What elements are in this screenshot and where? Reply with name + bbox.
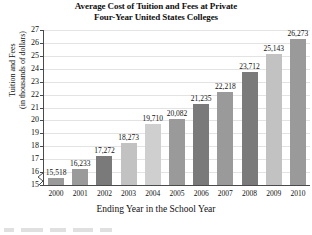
x-axis-tick-label: 2003 bbox=[117, 189, 141, 198]
y-axis-tick-label: 26 bbox=[31, 39, 39, 47]
x-axis-tick-label: 2008 bbox=[237, 189, 261, 198]
bar-slot: 21,235 bbox=[189, 30, 213, 185]
bar[interactable] bbox=[169, 119, 185, 185]
x-axis-tick-label: 2007 bbox=[213, 189, 237, 198]
bar-series: 15,51816,23317,27218,27319,71020,08221,2… bbox=[44, 30, 310, 185]
x-axis-tick-label: 2000 bbox=[44, 189, 68, 198]
bar-value-label: 25,143 bbox=[263, 45, 284, 53]
source-note-fragment bbox=[4, 228, 154, 234]
bar-slot: 23,712 bbox=[237, 30, 261, 185]
chart-title-line-2: Four-Year United States Colleges bbox=[0, 12, 312, 23]
y-axis-tick-label: 22 bbox=[31, 91, 39, 99]
x-axis-tick-label: 2001 bbox=[68, 189, 92, 198]
bar-slot: 16,233 bbox=[68, 30, 92, 185]
bar-value-label: 20,082 bbox=[167, 110, 188, 118]
y-axis-tick-label: 23 bbox=[31, 78, 39, 86]
bar-value-label: 18,273 bbox=[118, 134, 139, 142]
bar-slot: 17,272 bbox=[92, 30, 116, 185]
y-axis-tick-label: 17 bbox=[31, 155, 39, 163]
bar-value-label: 16,233 bbox=[70, 160, 91, 168]
bar[interactable] bbox=[72, 169, 88, 185]
bar[interactable] bbox=[145, 124, 161, 185]
y-axis-tick-label: 18 bbox=[31, 142, 39, 150]
bar-slot: 18,273 bbox=[117, 30, 141, 185]
x-axis-tick-label: 2006 bbox=[189, 189, 213, 198]
bar-slot: 22,218 bbox=[213, 30, 237, 185]
bar-value-label: 26,273 bbox=[288, 30, 309, 38]
chart-title-line-1: Average Cost of Tuition and Fees at Priv… bbox=[75, 1, 237, 11]
x-axis-tick-label: 2002 bbox=[92, 189, 116, 198]
bar-value-label: 15,518 bbox=[46, 169, 67, 177]
bar-slot: 25,143 bbox=[262, 30, 286, 185]
bar[interactable] bbox=[242, 72, 258, 185]
y-axis-tick-label: 21 bbox=[31, 104, 39, 112]
y-axis-tick-label: 27 bbox=[31, 26, 39, 34]
bar-value-label: 21,235 bbox=[191, 95, 212, 103]
bar-value-label: 22,218 bbox=[215, 83, 236, 91]
bar[interactable] bbox=[217, 92, 233, 185]
plot-area: 27262524232221201918171615 15,51816,2331… bbox=[44, 30, 310, 185]
x-axis-tick-label: 2005 bbox=[165, 189, 189, 198]
bar-value-label: 23,712 bbox=[239, 63, 260, 71]
y-axis-tick-label: 24 bbox=[31, 65, 39, 73]
bar[interactable] bbox=[48, 178, 64, 185]
bar-slot: 19,710 bbox=[141, 30, 165, 185]
y-axis-tick-label: 19 bbox=[31, 129, 39, 137]
y-axis-label-line-1: Tuition and Fees bbox=[8, 0, 18, 140]
x-axis-tick-label: 2010 bbox=[286, 189, 310, 198]
y-axis-label-line-2: (in thousands of dollars) bbox=[18, 0, 28, 140]
x-axis-tick-label: 2004 bbox=[141, 189, 165, 198]
chart-figure: Average Cost of Tuition and Fees at Priv… bbox=[0, 0, 312, 235]
x-axis-label: Ending Year in the School Year bbox=[0, 204, 312, 214]
y-axis-tick-label: 25 bbox=[31, 52, 39, 60]
bar[interactable] bbox=[121, 143, 137, 185]
bar[interactable] bbox=[96, 156, 112, 185]
x-axis-line bbox=[43, 185, 310, 186]
bar-value-label: 19,710 bbox=[142, 115, 163, 123]
bar[interactable] bbox=[266, 54, 282, 185]
bar[interactable] bbox=[193, 104, 209, 185]
bar-slot: 26,273 bbox=[286, 30, 310, 185]
bar-value-label: 17,272 bbox=[94, 147, 115, 155]
x-axis-tick-label: 2009 bbox=[262, 189, 286, 198]
bar-slot: 20,082 bbox=[165, 30, 189, 185]
bar[interactable] bbox=[290, 39, 306, 185]
bar-slot: 15,518 bbox=[44, 30, 68, 185]
y-axis-tick-label: 20 bbox=[31, 116, 39, 124]
chart-title: Average Cost of Tuition and Fees at Priv… bbox=[0, 1, 312, 23]
